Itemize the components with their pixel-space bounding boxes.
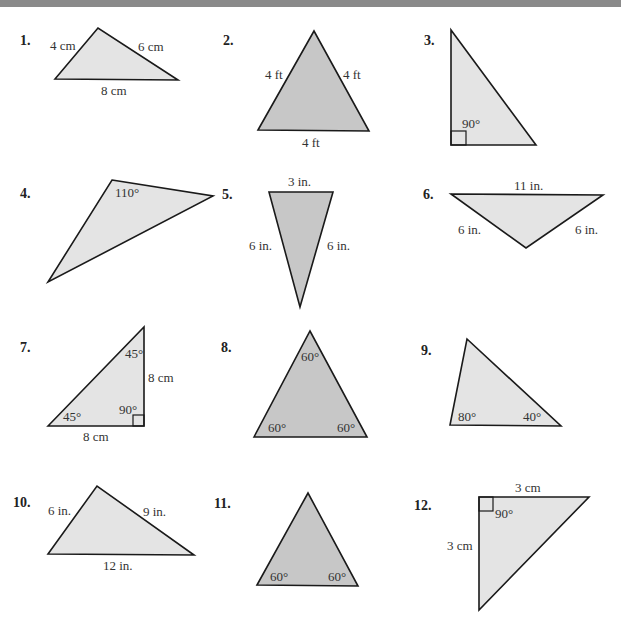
side-label: 6 in. bbox=[458, 222, 481, 237]
problem-number: 10. bbox=[13, 495, 31, 510]
angle-label: 90° bbox=[462, 116, 480, 131]
problem-1: 1. 4 cm 6 cm 8 cm bbox=[20, 28, 178, 98]
angle-label: 80° bbox=[458, 409, 476, 424]
problem-number: 4. bbox=[20, 186, 31, 201]
triangle-10 bbox=[48, 486, 194, 555]
side-label: 6 in. bbox=[327, 238, 350, 253]
angle-label: 90° bbox=[119, 402, 137, 417]
side-label: 6 cm bbox=[138, 39, 164, 54]
side-label: 6 in. bbox=[249, 238, 272, 253]
angle-label: 60° bbox=[301, 349, 319, 364]
side-label: 6 in. bbox=[575, 222, 598, 237]
triangle-worksheet: 1. 4 cm 6 cm 8 cm 2. 4 ft 4 ft 4 ft 3. 9… bbox=[0, 0, 621, 630]
problem-number: 5. bbox=[222, 187, 233, 202]
problem-4: 4. 110° bbox=[20, 180, 213, 282]
problem-number: 6. bbox=[423, 187, 434, 202]
problem-8: 8. 60° 60° 60° bbox=[221, 331, 367, 437]
angle-label: 60° bbox=[268, 420, 286, 435]
angle-label: 60° bbox=[270, 569, 288, 584]
side-label: 3 in. bbox=[288, 174, 311, 189]
side-label: 3 cm bbox=[515, 480, 541, 495]
problem-number: 8. bbox=[221, 340, 232, 355]
problem-number: 3. bbox=[424, 33, 435, 48]
angle-label: 110° bbox=[115, 185, 139, 200]
problem-7: 7. 45° 8 cm 45° 90° 8 cm bbox=[20, 327, 174, 444]
problem-6: 6. 11 in. 6 in. 6 in. bbox=[423, 178, 603, 248]
problem-11: 11. 60° 60° bbox=[214, 493, 358, 586]
angle-label: 45° bbox=[125, 346, 143, 361]
problem-9: 9. 80° 40° bbox=[421, 339, 561, 426]
problem-number: 12. bbox=[414, 498, 432, 513]
angle-label: 45° bbox=[63, 409, 81, 424]
triangle-6 bbox=[451, 194, 603, 248]
side-label: 8 cm bbox=[101, 83, 127, 98]
side-label: 9 in. bbox=[143, 504, 166, 519]
side-label: 4 ft bbox=[302, 135, 320, 150]
angle-label: 40° bbox=[523, 409, 541, 424]
problem-10: 10. 6 in. 9 in. 12 in. bbox=[13, 486, 194, 573]
problem-3: 3. 90° bbox=[424, 30, 536, 145]
triangle-1 bbox=[55, 28, 178, 80]
angle-label: 60° bbox=[328, 569, 346, 584]
angle-label: 60° bbox=[337, 420, 355, 435]
problem-number: 2. bbox=[223, 33, 234, 48]
side-label: 4 cm bbox=[50, 38, 76, 53]
problem-5: 5. 3 in. 6 in. 6 in. bbox=[222, 174, 350, 307]
side-label: 4 ft bbox=[265, 67, 283, 82]
problem-number: 9. bbox=[421, 343, 432, 358]
side-label: 8 cm bbox=[148, 370, 174, 385]
problem-number: 11. bbox=[214, 496, 231, 511]
side-label: 11 in. bbox=[514, 178, 543, 193]
side-label: 8 cm bbox=[83, 429, 109, 444]
triangle-5 bbox=[269, 192, 333, 307]
problem-number: 1. bbox=[20, 33, 31, 48]
angle-label: 90° bbox=[495, 506, 513, 521]
problem-2: 2. 4 ft 4 ft 4 ft bbox=[223, 31, 369, 150]
side-label: 12 in. bbox=[103, 558, 133, 573]
side-label: 4 ft bbox=[343, 67, 361, 82]
side-label: 6 in. bbox=[48, 503, 71, 518]
problem-number: 7. bbox=[20, 340, 31, 355]
problem-12: 12. 3 cm 90° 3 cm bbox=[414, 480, 589, 610]
side-label: 3 cm bbox=[447, 538, 473, 553]
